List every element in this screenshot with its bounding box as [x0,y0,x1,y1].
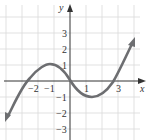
x-tick-neg1: −1 [44,84,55,94]
y-tick-1: 1 [62,61,67,71]
y-tick-3: 3 [62,29,67,39]
x-tick-neg2: −2 [28,84,39,94]
graph-canvas [0,0,149,140]
function-graph: y x −2 −1 1 3 3 2 1 −1 −2 −3 [0,0,149,140]
y-tick-neg1: −1 [56,93,67,103]
curve-end-arrow-icon [128,37,135,47]
x-axis-label: x [140,84,144,94]
y-tick-2: 2 [62,45,67,55]
x-tick-1: 1 [84,84,89,94]
y-tick-neg2: −2 [56,109,67,119]
x-tick-3: 3 [116,84,121,94]
y-axis-arrow-icon [67,4,73,12]
y-axis-label: y [59,3,63,13]
y-tick-neg3: −3 [56,125,67,135]
axes [4,8,141,140]
